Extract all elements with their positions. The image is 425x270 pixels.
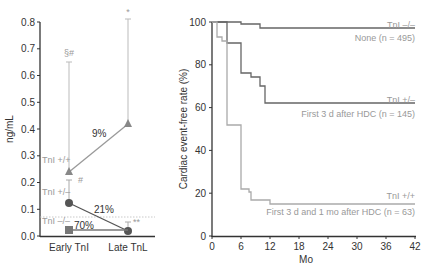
legend-desc-tni-pp: First 3 d and 1 mo after HDC (n = 63) xyxy=(266,207,415,217)
errorbar-tni-pp xyxy=(66,19,131,172)
legend-name-tni-pm: TnI +/– xyxy=(387,95,415,105)
right-ytick-60: 60 xyxy=(195,102,207,113)
right-xtick-42: 42 xyxy=(409,241,421,252)
right-xtick-12: 12 xyxy=(264,241,276,252)
right-xtick-36: 36 xyxy=(380,241,392,252)
right-y-label: Cardiac event-free rate (%) xyxy=(178,69,189,190)
km-curve-tni-mm xyxy=(212,22,415,28)
right-ytick-40: 40 xyxy=(195,145,207,156)
right-xtick-30: 30 xyxy=(351,241,363,252)
right-ytick-100: 100 xyxy=(189,17,206,28)
legend-name-tni-mm: TnI –/– xyxy=(387,20,415,30)
left-ytick-1: 0.1 xyxy=(21,204,35,215)
marker-square-early xyxy=(65,226,73,234)
group-label-tni-mm: TnI –/– xyxy=(42,216,70,226)
left-ytick-7: 0.7 xyxy=(21,43,35,54)
annot-early-pp: §# xyxy=(64,48,74,58)
right-ytick-80: 80 xyxy=(195,59,207,70)
right-ytick-0: 0 xyxy=(200,231,206,242)
percent-pp: 9% xyxy=(92,128,107,139)
left-ytick-8: 0.8 xyxy=(21,17,35,28)
legend-desc-tni-pm: First 3 d after HDC (n = 145) xyxy=(301,109,415,119)
left-y-label: ng/mL xyxy=(4,115,15,143)
annot-late-pp: * xyxy=(126,7,130,17)
figure: 0.0 0.1 0.2 0.3 0.4 0.5 0.6 0.7 0.8 ng/m… xyxy=(0,0,425,270)
left-ytick-6: 0.6 xyxy=(21,70,35,81)
left-ytick-3: 0.3 xyxy=(21,150,35,161)
right-xtick-6: 6 xyxy=(238,241,244,252)
left-ytick-0: 0.0 xyxy=(21,231,35,242)
right-chart: 0 20 40 60 80 100 0 6 12 18 24 30 36 42 … xyxy=(178,17,421,265)
left-xcat-early: Early TnI xyxy=(49,242,89,253)
right-x-label: Mo xyxy=(299,254,313,265)
marker-triangle-early xyxy=(65,167,73,175)
marker-triangle-late xyxy=(124,119,132,127)
legend-desc-tni-mm: None (n = 495) xyxy=(355,33,415,43)
group-label-tni-pm: TnI +/– xyxy=(42,187,70,197)
marker-circle-early xyxy=(65,199,73,207)
right-xtick-0: 0 xyxy=(209,241,215,252)
annot-late-pm: ** xyxy=(133,217,141,227)
left-ytick-5: 0.5 xyxy=(21,97,35,108)
marker-circle-late xyxy=(124,227,132,235)
group-label-tni-pp: TnI +/+ xyxy=(42,155,71,165)
left-ytick-4: 0.4 xyxy=(21,124,35,135)
right-xtick-24: 24 xyxy=(322,241,334,252)
left-chart: 0.0 0.1 0.2 0.3 0.4 0.5 0.6 0.7 0.8 ng/m… xyxy=(4,7,155,253)
right-ytick-20: 20 xyxy=(195,188,207,199)
percent-pm: 21% xyxy=(94,204,114,215)
left-xcat-late: Late TnL xyxy=(108,242,148,253)
left-ytick-2: 0.2 xyxy=(21,177,35,188)
right-xtick-18: 18 xyxy=(293,241,305,252)
annot-early-pm: # xyxy=(78,175,83,185)
percent-mm: 70% xyxy=(74,220,94,231)
legend-name-tni-pp: TnI +/+ xyxy=(386,191,415,201)
